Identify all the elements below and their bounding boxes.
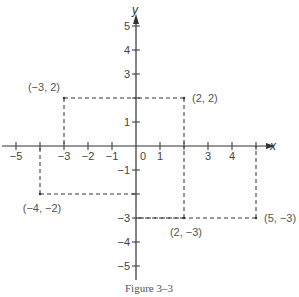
point-marker [39, 193, 41, 195]
point-label: (−4, −2) [23, 202, 62, 214]
y-tick-label: 3 [124, 68, 130, 80]
point-label: (2, 2) [192, 92, 218, 104]
projection-lines [40, 98, 256, 218]
point-label: (2, −3) [170, 226, 202, 238]
point-marker [63, 97, 65, 99]
x-tick-label: 3 [205, 150, 211, 162]
point-marker [183, 97, 185, 99]
y-tick-label: −1 [117, 164, 130, 176]
y-tick-label: −4 [117, 236, 130, 248]
x-tick-label: −2 [82, 150, 95, 162]
figure-caption: Figure 3–3 [125, 282, 173, 294]
point-label: (5, −3) [264, 212, 296, 224]
x-axis-label: x [269, 139, 277, 153]
y-tick-label: 4 [124, 44, 130, 56]
point-marker [183, 217, 185, 219]
point-marker [255, 217, 257, 219]
x-tick-label: −5 [10, 150, 23, 162]
y-tick-label: 5 [124, 20, 130, 32]
coordinate-plane-figure: −5−3−2−11345431−1−3−4−5 (−3, 2)(2, 2)(−4… [0, 0, 299, 297]
axes [2, 14, 275, 280]
x-tick-label: −1 [106, 150, 119, 162]
y-tick-label: 1 [124, 116, 130, 128]
origin-label: 0 [140, 150, 146, 162]
x-tick-label: 1 [157, 150, 163, 162]
x-tick-label: −3 [58, 150, 71, 162]
x-tick-label: 4 [229, 150, 235, 162]
y-tick-label: −3 [117, 212, 130, 224]
point-label: (−3, 2) [28, 81, 60, 93]
y-tick-label: −5 [117, 260, 130, 272]
y-axis-label: y [131, 3, 139, 17]
